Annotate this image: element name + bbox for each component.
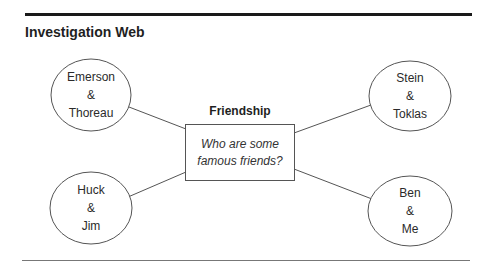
node-name-1: Ben [399, 184, 420, 202]
node-bottom-left: Huck & Jim [50, 172, 132, 244]
node-top-left: Emerson & Thoreau [51, 59, 131, 131]
connector-bottom-right [294, 169, 372, 199]
node-ampersand: & [87, 199, 95, 217]
node-name-2: Me [402, 220, 419, 238]
node-name-1: Huck [77, 181, 104, 199]
bottom-rule [22, 260, 470, 261]
connector-bottom-left [128, 172, 186, 197]
node-ampersand: & [406, 202, 414, 220]
node-name-1: Stein [396, 69, 423, 87]
node-name-1: Emerson [67, 68, 115, 86]
node-name-2: Jim [82, 217, 101, 235]
node-ampersand: & [87, 86, 95, 104]
node-name-2: Thoreau [69, 104, 114, 122]
node-bottom-right: Ben & Me [368, 176, 452, 246]
center-question-line2: famous friends? [197, 153, 282, 170]
center-question: Who are some famous friends? [186, 125, 294, 180]
center-heading: Friendship [185, 104, 295, 118]
node-ampersand: & [406, 87, 414, 105]
node-top-right: Stein & Toklas [369, 61, 451, 131]
connector-top-right [294, 105, 371, 133]
node-name-2: Toklas [393, 105, 427, 123]
center-question-line1: Who are some [201, 136, 279, 153]
connector-top-left [129, 107, 186, 129]
